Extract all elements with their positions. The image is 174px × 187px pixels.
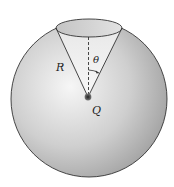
radius-label: R: [55, 61, 64, 74]
cone-opening: [56, 19, 122, 37]
sphere-diagram: R θ Q: [0, 0, 174, 187]
charge-label: Q: [92, 104, 101, 117]
angle-label: θ: [93, 54, 99, 65]
charge-point: [85, 94, 92, 101]
